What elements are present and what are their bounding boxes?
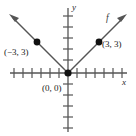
x-axis-label: x <box>122 78 126 87</box>
arrow-up-right-icon <box>117 14 127 22</box>
curve-left-branch <box>13 18 68 73</box>
graph-figure: (−3, 3) (3, 3) (0, 0) y x f <box>0 0 136 136</box>
function-label: f <box>106 14 109 24</box>
origin-point-label: (0, 0) <box>42 84 62 93</box>
y-axis-label: y <box>72 3 76 12</box>
left-point-marker <box>34 39 41 46</box>
coordinate-plane-svg <box>0 0 136 136</box>
origin-point-marker <box>64 69 71 76</box>
right-point-label: (3, 3) <box>102 40 122 49</box>
left-point-label: (−3, 3) <box>4 48 29 57</box>
arrow-up-left-icon <box>9 14 19 22</box>
